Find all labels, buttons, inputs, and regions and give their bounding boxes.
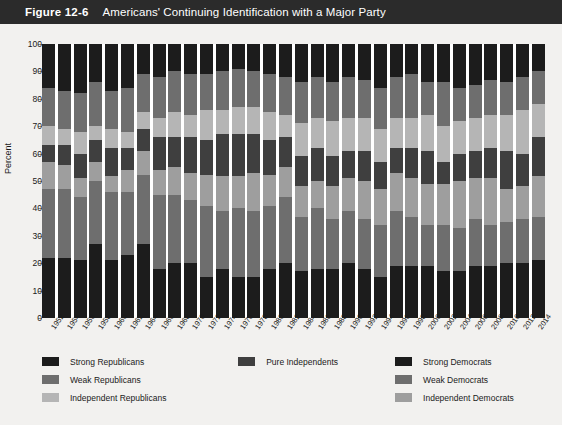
bar-segment: [484, 266, 497, 318]
bar-segment: [311, 77, 324, 118]
y-tick-label: 100: [12, 39, 42, 49]
bar-segment: [105, 260, 118, 318]
bar-segment: [137, 244, 150, 318]
bar-segment: [58, 165, 71, 190]
chart-container: Percent 0102030405060708090100 195219541…: [0, 24, 562, 425]
legend-swatch-icon: [395, 357, 412, 366]
bar-1992[interactable]: [358, 44, 371, 318]
bar-1974[interactable]: [216, 44, 229, 318]
bar-2012[interactable]: [516, 44, 529, 318]
bar-segment: [453, 228, 466, 272]
bar-1968[interactable]: [168, 44, 181, 318]
bar-1960[interactable]: [105, 44, 118, 318]
bar-segment: [153, 118, 166, 137]
bar-segment: [342, 77, 355, 118]
bar-1994[interactable]: [374, 44, 387, 318]
bar-segment: [295, 123, 308, 156]
bar-segment: [216, 44, 229, 71]
bar-segment: [200, 110, 213, 140]
bar-segment: [390, 148, 403, 173]
bar-1990[interactable]: [342, 44, 355, 318]
bar-segment: [516, 77, 529, 110]
legend-item[interactable]: Independent Democrats: [395, 392, 552, 403]
legend-item[interactable]: Weak Democrats: [395, 374, 552, 385]
bar-1980[interactable]: [263, 44, 276, 318]
bar-1982[interactable]: [279, 44, 292, 318]
bar-segment: [247, 71, 260, 107]
bar-segment: [89, 181, 102, 244]
legend-item[interactable]: Weak Republicans: [42, 374, 238, 385]
bar-2014[interactable]: [532, 44, 545, 318]
bar-segment: [358, 80, 371, 118]
legend-item[interactable]: Independent Republicans: [42, 392, 238, 403]
bar-segment: [153, 77, 166, 118]
figure-title-bar: Figure 12-6 Americans' Continuing Identi…: [0, 0, 562, 24]
bar-segment: [153, 44, 166, 77]
bar-segment: [232, 107, 245, 134]
bar-2000[interactable]: [421, 44, 434, 318]
bar-segment: [295, 271, 308, 318]
bar-segment: [453, 44, 466, 88]
bar-1978[interactable]: [247, 44, 260, 318]
bar-segment: [390, 44, 403, 77]
bar-2010[interactable]: [500, 44, 513, 318]
bar-1984[interactable]: [295, 44, 308, 318]
bar-segment: [453, 154, 466, 181]
bar-segment: [358, 181, 371, 219]
bar-segment: [42, 126, 55, 145]
bar-1962[interactable]: [121, 44, 134, 318]
bar-1996[interactable]: [390, 44, 403, 318]
bar-segment: [247, 134, 260, 172]
bar-1998[interactable]: [405, 44, 418, 318]
legend-item[interactable]: Strong Democrats: [395, 356, 552, 367]
bar-segment: [232, 44, 245, 69]
bar-segment: [153, 137, 166, 170]
bar-segment: [105, 192, 118, 261]
bar-1958[interactable]: [89, 44, 102, 318]
bar-1966[interactable]: [153, 44, 166, 318]
bar-2008[interactable]: [484, 44, 497, 318]
bar-1976[interactable]: [232, 44, 245, 318]
bar-segment: [311, 269, 324, 318]
bar-1952[interactable]: [42, 44, 55, 318]
bar-segment: [263, 206, 276, 269]
bar-1972[interactable]: [200, 44, 213, 318]
bar-segment: [42, 44, 55, 88]
legend-label: Independent Republicans: [70, 393, 166, 403]
bar-segment: [279, 263, 292, 318]
bar-segment: [358, 151, 371, 181]
bar-segment: [295, 156, 308, 186]
bar-segment: [168, 263, 181, 318]
bar-segment: [500, 151, 513, 189]
bar-1988[interactable]: [326, 44, 339, 318]
y-tick-label: 30: [12, 231, 42, 241]
legend-item[interactable]: Strong Republicans: [42, 356, 238, 367]
bar-1986[interactable]: [311, 44, 324, 318]
bar-segment: [295, 44, 308, 82]
legend-label: Independent Democrats: [423, 393, 514, 403]
legend-swatch-icon: [42, 393, 59, 402]
legend-item[interactable]: Pure Independents: [238, 356, 395, 367]
bar-segment: [184, 137, 197, 173]
bar-segment: [421, 266, 434, 318]
bar-segment: [469, 118, 482, 151]
bar-segment: [295, 82, 308, 123]
bar-2004[interactable]: [453, 44, 466, 318]
bar-segment: [121, 88, 134, 132]
bar-1970[interactable]: [184, 44, 197, 318]
bar-segment: [516, 263, 529, 318]
bar-segment: [279, 197, 292, 263]
bar-1954[interactable]: [58, 44, 71, 318]
bar-segment: [516, 154, 529, 187]
bar-2002[interactable]: [437, 44, 450, 318]
bar-segment: [168, 195, 181, 264]
bar-segment: [358, 118, 371, 151]
bar-2006[interactable]: [469, 44, 482, 318]
bar-segment: [326, 186, 339, 219]
bar-segment: [342, 178, 355, 211]
bar-segment: [453, 88, 466, 121]
bar-segment: [405, 74, 418, 118]
bar-segment: [42, 189, 55, 258]
bar-1956[interactable]: [74, 44, 87, 318]
bar-1964[interactable]: [137, 44, 150, 318]
